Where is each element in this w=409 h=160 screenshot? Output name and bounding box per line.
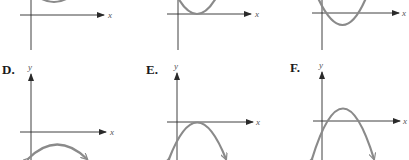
panel-label: F. [290, 60, 300, 75]
x-axis-label: x [107, 10, 112, 20]
parabola-curve [169, 123, 226, 160]
y-axis-label: y [27, 62, 32, 72]
graph-panel-d: D. y x [2, 62, 114, 160]
parabola-curve [312, 109, 374, 160]
graph-panel-f: F. y x [290, 60, 407, 160]
x-axis-label: x [109, 127, 114, 137]
x-axis-label: x [255, 117, 260, 127]
parabola-curve [318, 0, 366, 25]
graph-panel-a: x [20, 0, 112, 50]
graph-panel-c: x [312, 0, 406, 50]
parabola-graphs-figure: x x x D. y x E. y x F. y x [0, 0, 409, 160]
graph-panel-e: E. y x [146, 61, 260, 160]
graph-panel-b: x [167, 0, 259, 50]
y-axis-label: y [318, 60, 323, 70]
x-axis-label: x [402, 116, 407, 126]
panel-label: D. [2, 62, 15, 77]
parabola-curve [178, 0, 216, 14]
x-axis-label: x [401, 8, 406, 18]
x-axis-label: x [254, 9, 259, 19]
parabola-curve [40, 0, 68, 2]
y-axis-label: y [173, 61, 178, 71]
panel-label: E. [146, 62, 158, 77]
parabola-curve [28, 145, 87, 160]
